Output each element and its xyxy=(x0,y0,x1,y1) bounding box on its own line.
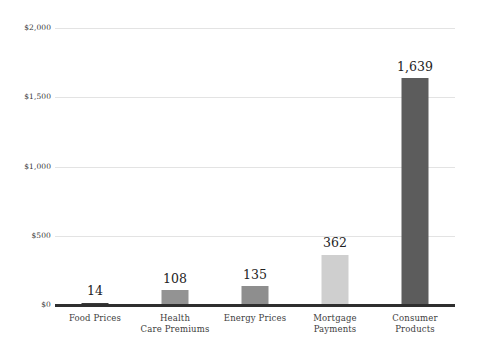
bar-group: 14 xyxy=(55,28,135,305)
bar-chart: $0$500$1,000$1,500$2,000 141081353621,63… xyxy=(0,0,477,358)
category-label: Food Prices xyxy=(55,313,135,324)
y-axis-tick-label: $500 xyxy=(5,232,51,240)
bar-value-label: 108 xyxy=(163,273,187,286)
category-label-line: Payments xyxy=(295,324,375,335)
category-label: HealthCare Premiums xyxy=(135,313,215,335)
category-label: ConsumerProducts xyxy=(375,313,455,335)
bar-group: 1,639 xyxy=(375,28,455,305)
x-axis-category-labels: Food PricesHealthCare PremiumsEnergy Pri… xyxy=(55,313,455,353)
category-label-line: Products xyxy=(375,324,455,335)
category-label-line: Energy Prices xyxy=(215,313,295,324)
category-label: MortgagePayments xyxy=(295,313,375,335)
category-label-line: Mortgage xyxy=(295,313,375,324)
bar-group: 362 xyxy=(295,28,375,305)
category-label-line: Care Premiums xyxy=(135,324,215,335)
bar-value-label: 135 xyxy=(243,269,267,282)
category-label-line: Food Prices xyxy=(55,313,135,324)
x-axis-baseline xyxy=(55,304,455,307)
bar[interactable] xyxy=(402,78,429,305)
category-label-line: Consumer xyxy=(375,313,455,324)
y-axis-tick-label: $2,000 xyxy=(5,24,51,32)
category-label-line: Health xyxy=(135,313,215,324)
y-axis-tick-label: $0 xyxy=(5,301,51,309)
bar[interactable] xyxy=(162,290,189,305)
bar-group: 135 xyxy=(215,28,295,305)
bar-group: 108 xyxy=(135,28,215,305)
y-axis-tick-label: $1,500 xyxy=(5,93,51,101)
bar-value-label: 14 xyxy=(87,285,103,298)
bar[interactable] xyxy=(242,286,269,305)
bar-value-label: 362 xyxy=(323,237,347,250)
bar-value-label: 1,639 xyxy=(397,61,433,74)
y-axis-tick-labels: $0$500$1,000$1,500$2,000 xyxy=(0,28,51,305)
bar[interactable] xyxy=(322,255,349,305)
y-axis-tick-label: $1,000 xyxy=(5,163,51,171)
bars-container: 141081353621,639 xyxy=(55,28,455,305)
category-label: Energy Prices xyxy=(215,313,295,324)
